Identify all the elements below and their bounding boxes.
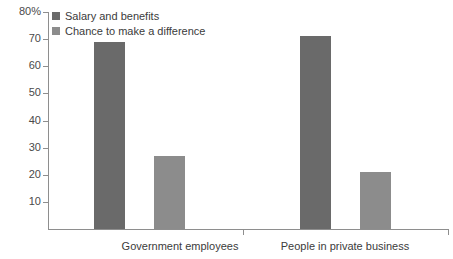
y-axis-tick-label-text: 50	[1, 87, 41, 98]
y-axis-tick	[43, 202, 49, 203]
y-axis-tick-label: 20	[0, 169, 41, 180]
x-axis-category-label: Government employees	[90, 240, 270, 253]
y-axis-tick-label-text: 70	[1, 33, 41, 44]
x-axis-line	[48, 229, 448, 230]
x-axis-category-label: People in private business	[255, 240, 435, 253]
y-axis-tick-label-text: 40	[1, 115, 41, 126]
y-axis-tick	[43, 12, 49, 13]
y-axis-tick-label: 30	[0, 142, 41, 153]
legend-item-salary-and-benefits: Salary and benefits	[52, 9, 205, 22]
y-axis-tick-label: 40	[0, 115, 41, 126]
legend-item-label: Salary and benefits	[65, 10, 159, 22]
bar	[300, 36, 331, 229]
chart-legend: Salary and benefits Chance to make a dif…	[52, 9, 205, 39]
bar-chart: 80%70605040302010 Government employeesPe…	[0, 0, 453, 259]
y-axis-tick-label: 80%	[0, 6, 41, 17]
legend-swatch-icon	[52, 27, 60, 35]
x-axis-tick	[243, 229, 244, 235]
y-axis-tick-label-text: 30	[1, 142, 41, 153]
y-axis-tick-label-text: 60	[1, 60, 41, 71]
y-axis-tick	[43, 121, 49, 122]
y-axis-tick	[43, 148, 49, 149]
y-axis-tick	[43, 39, 49, 40]
y-axis-tick-label: 60	[0, 60, 41, 71]
legend-swatch-icon	[52, 12, 60, 20]
bar	[154, 156, 185, 229]
y-axis-tick-label-text: 80%	[1, 6, 41, 17]
y-axis-tick-label-text: 20	[1, 169, 41, 180]
y-axis-tick	[43, 93, 49, 94]
legend-item-chance-to-make-a-difference: Chance to make a difference	[52, 24, 205, 37]
y-axis-tick-label: 50	[0, 87, 41, 98]
bar	[94, 42, 125, 229]
y-axis-tick	[43, 175, 49, 176]
y-axis-tick	[43, 66, 49, 67]
y-axis-tick-label: 70	[0, 33, 41, 44]
x-axis-tick	[448, 229, 449, 235]
y-axis-tick-label: 10	[0, 196, 41, 207]
legend-item-label: Chance to make a difference	[65, 25, 205, 37]
y-axis-tick-label-text: 10	[1, 196, 41, 207]
bar	[360, 172, 391, 229]
